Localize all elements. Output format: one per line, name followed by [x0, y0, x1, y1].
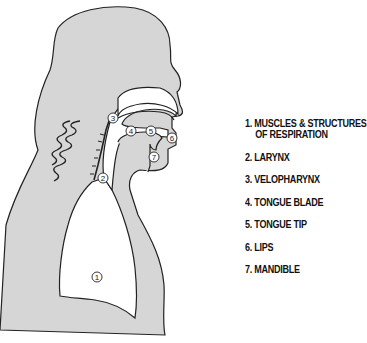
legend-num: 2. — [245, 151, 252, 163]
legend-text: LARYNX — [254, 151, 289, 163]
legend-num: 1. — [245, 117, 252, 129]
legend-text: LIPS — [254, 241, 273, 253]
legend-item-5: 5. TONGUE TIP — [245, 219, 322, 230]
marker-2: 2 — [98, 173, 108, 183]
legend: 1. MUSCLES & STRUCTURES OF RESPIRATION 2… — [245, 118, 335, 287]
legend-text: MANDIBLE — [254, 263, 300, 275]
legend-num: 5. — [245, 218, 252, 230]
marker-7: 7 — [149, 152, 159, 162]
marker-5: 5 — [146, 126, 156, 136]
marker-6: 6 — [167, 133, 177, 143]
svg-text:4: 4 — [129, 127, 134, 136]
marker-3: 3 — [108, 113, 118, 123]
legend-text: TONGUE BLADE — [254, 196, 323, 208]
legend-item-2: 2. LARYNX — [245, 152, 322, 163]
svg-text:7: 7 — [152, 153, 157, 162]
legend-num: 3. — [245, 173, 252, 185]
legend-item-7: 7. MANDIBLE — [245, 264, 322, 275]
legend-item-1: 1. MUSCLES & STRUCTURES OF RESPIRATION — [245, 118, 322, 140]
legend-num: 7. — [245, 263, 252, 275]
svg-text:3: 3 — [111, 114, 116, 123]
svg-text:6: 6 — [170, 134, 175, 143]
marker-4: 4 — [126, 126, 136, 136]
legend-num: 4. — [245, 196, 252, 208]
marker-1: 1 — [92, 272, 102, 282]
legend-item-4: 4. TONGUE BLADE — [245, 197, 322, 208]
legend-item-6: 6. LIPS — [245, 242, 322, 253]
legend-text: VELOPHARYNX — [254, 173, 320, 185]
legend-num: 6. — [245, 241, 252, 253]
legend-text-line2: OF RESPIRATION — [245, 129, 322, 140]
svg-text:5: 5 — [149, 127, 154, 136]
svg-text:1: 1 — [95, 273, 100, 282]
legend-text: TONGUE TIP — [254, 218, 306, 230]
legend-item-3: 3. VELOPHARYNX — [245, 174, 322, 185]
svg-text:2: 2 — [101, 174, 106, 183]
